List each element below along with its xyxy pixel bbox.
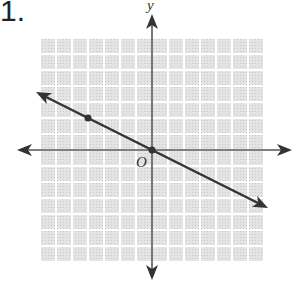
y-axis-label: y	[145, 0, 154, 13]
data-point	[149, 147, 156, 154]
origin-label: O	[136, 154, 147, 170]
coordinate-plane: y O	[0, 0, 294, 282]
data-point	[85, 115, 92, 122]
